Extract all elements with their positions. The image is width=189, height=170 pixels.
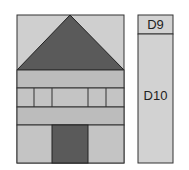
- window-row: [17, 88, 124, 107]
- strip-d10-box: D10: [138, 34, 173, 163]
- upper-band: [17, 70, 124, 88]
- label-d10: D10: [138, 88, 173, 103]
- strip-d9-box: D9: [138, 15, 173, 34]
- label-d9: D9: [138, 17, 173, 32]
- lower-band: [17, 107, 124, 125]
- door: [52, 125, 88, 163]
